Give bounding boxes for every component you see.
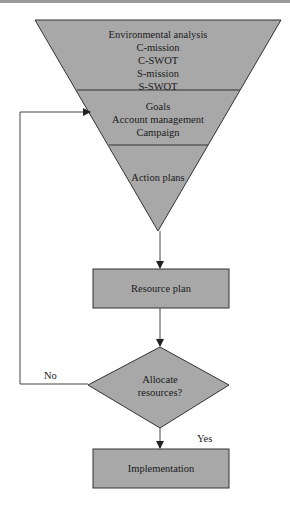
funnel-section-action-plans: Action plans [98, 171, 218, 184]
label-environmental-analysis: Environmental analysis [58, 28, 258, 41]
label-allocate: Allocate [100, 373, 220, 386]
label-account-management: Account management [58, 113, 258, 126]
label-resources: resources? [100, 386, 220, 399]
label-resource-plan: Resource plan [93, 282, 229, 295]
label-s-swot: S-SWOT [58, 80, 258, 93]
funnel-section-environment: Environmental analysis C-mission C-SWOT … [58, 28, 258, 93]
edge-label-yes: Yes [197, 432, 212, 445]
label-campaign: Campaign [58, 126, 258, 139]
label-s-mission: S-mission [58, 67, 258, 80]
edge-label-no: No [44, 369, 57, 382]
funnel-section-goals: Goals Account management Campaign [58, 100, 258, 139]
decision-label: Allocate resources? [100, 373, 220, 399]
label-c-mission: C-mission [58, 41, 258, 54]
label-action-plans: Action plans [98, 171, 218, 184]
arrow-no-feedback-loop [20, 112, 90, 384]
label-implementation: Implementation [93, 462, 229, 475]
label-goals: Goals [58, 100, 258, 113]
label-c-swot: C-SWOT [58, 54, 258, 67]
